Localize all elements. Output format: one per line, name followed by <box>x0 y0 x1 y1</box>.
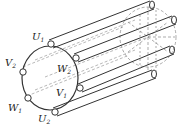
terminal-w2 <box>73 55 79 61</box>
terminal-u2 <box>52 109 58 115</box>
winding-diagram: U1 V2 W2 V1 W1 U2 <box>0 0 181 126</box>
label-u1: U1 <box>32 31 44 43</box>
terminal-u1 <box>48 41 54 47</box>
back-end-circle <box>120 7 176 72</box>
conductor-rods <box>49 1 177 116</box>
label-v1: V1 <box>56 87 67 99</box>
label-v2: V2 <box>5 57 16 69</box>
terminal-v1 <box>77 85 83 91</box>
terminal-w1 <box>25 95 31 101</box>
label-w2: W2 <box>57 63 71 75</box>
hidden-lines <box>23 20 148 96</box>
label-u2: U2 <box>38 113 50 125</box>
terminals <box>20 41 83 115</box>
diagram-svg: U1 V2 W2 V1 W1 U2 <box>0 0 181 126</box>
label-w1: W1 <box>8 102 22 114</box>
terminal-v2 <box>20 69 26 75</box>
